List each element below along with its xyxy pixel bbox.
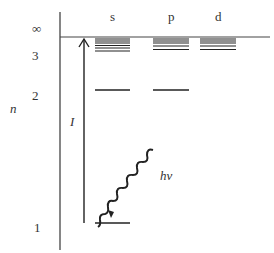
level-label-infinity: ∞	[32, 22, 41, 35]
level-label-1: 1	[34, 221, 41, 234]
energy-level-diagram: ∞ 3 2 1 n s p d I hv	[0, 0, 274, 253]
y-axis-label: n	[10, 102, 17, 115]
column-label-d: d	[215, 10, 222, 23]
level-label-3: 3	[32, 49, 39, 62]
photon-label: hv	[160, 169, 172, 182]
ionization-label: I	[70, 115, 74, 128]
s-levels-n3	[95, 39, 130, 51]
column-label-p: p	[168, 10, 175, 23]
ionization-arrow-icon	[79, 39, 89, 223]
d-levels-n3	[200, 39, 236, 50]
level-label-2: 2	[32, 89, 39, 102]
diagram-graphics	[0, 0, 274, 253]
column-label-s: s	[110, 10, 115, 23]
p-levels-n3	[153, 39, 189, 50]
photon-wave-arrow-icon	[98, 150, 153, 227]
